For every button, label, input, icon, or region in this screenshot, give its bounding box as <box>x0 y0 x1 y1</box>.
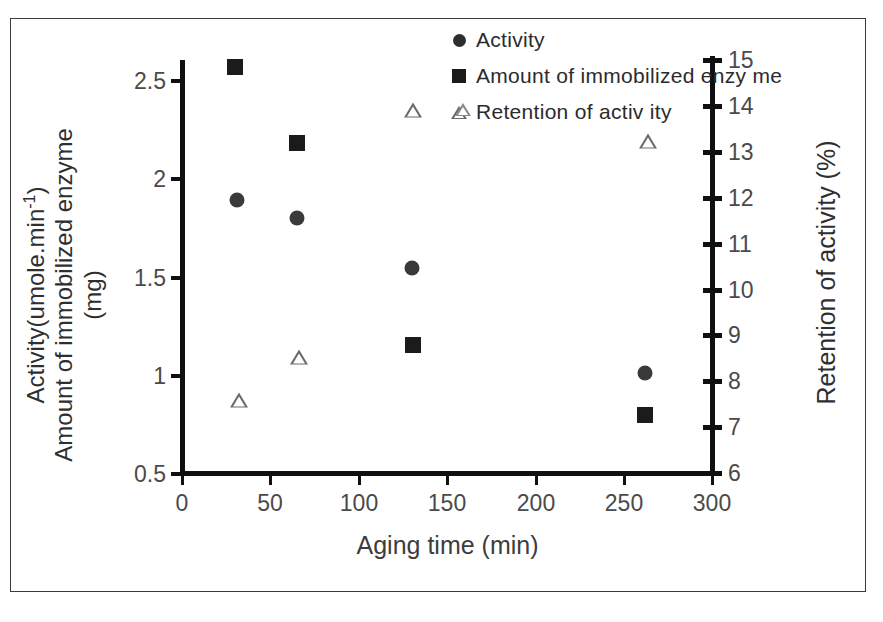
x-tick-label-50: 50 <box>257 492 283 515</box>
data-point-activity-30 <box>230 193 245 208</box>
y-left-title-text-a: Activity(umole.min <box>22 209 49 404</box>
y-axis-left-title: Activity(umole.min-1) Amount of immobili… <box>21 35 107 555</box>
y-left-tick-0.5 <box>171 472 182 476</box>
y-left-label-2.5: 2.5 <box>134 70 166 93</box>
data-point-activity-60 <box>290 211 305 226</box>
y-right-label-8: 8 <box>728 370 741 393</box>
y-right-label-13: 13 <box>728 141 754 164</box>
data-point-enzyme-30 <box>227 59 243 75</box>
x-tick-label-100: 100 <box>340 492 378 515</box>
x-tick-label-0: 0 <box>176 492 189 515</box>
legend-item-activity: Activity <box>448 22 782 58</box>
filled-circle-icon <box>448 34 470 47</box>
y-right-tick-7 <box>703 425 722 430</box>
y-right-tick-12 <box>703 196 722 201</box>
x-tick-200 <box>535 476 538 485</box>
y-left-tick-1.5 <box>171 276 182 280</box>
x-tick-50 <box>269 476 272 485</box>
x-tick-label-300: 300 <box>693 492 731 515</box>
y-right-label-12: 12 <box>728 187 754 210</box>
y-right-tick-8 <box>703 379 722 384</box>
data-point-enzyme-120 <box>405 337 421 353</box>
y-right-tick-13 <box>703 150 722 155</box>
y-right-label-9: 9 <box>728 324 741 347</box>
y-right-label-7: 7 <box>728 416 741 439</box>
x-tick-label-200: 200 <box>517 492 555 515</box>
y-axis-left-title-line1: Activity(umole.min-1) <box>21 35 50 555</box>
data-point-retention-30 <box>230 393 248 408</box>
y-left-tick-2.5 <box>171 79 182 83</box>
data-point-activity-240 <box>638 366 653 381</box>
y-axis-right-title: Retention of activity (%) <box>812 43 841 503</box>
data-point-enzyme-60 <box>289 135 305 151</box>
data-point-retention-120 <box>404 103 422 118</box>
data-point-activity-120 <box>405 261 420 276</box>
figure-container: 0 50 100 150 200 250 300 0.5 1 1.5 2 2.5… <box>0 0 883 622</box>
y-left-label-1: 1 <box>153 365 166 388</box>
y-right-tick-6 <box>703 471 722 476</box>
y-left-label-0.5: 0.5 <box>134 463 166 486</box>
y-left-title-text-b: ) <box>22 187 49 195</box>
y-left-label-2: 2 <box>153 168 166 191</box>
x-tick-250 <box>623 476 626 485</box>
x-tick-300 <box>711 476 714 485</box>
y-left-tick-2 <box>171 177 182 181</box>
y-axis-left-title-line2: Amount of immobilized enzyme <box>50 35 78 555</box>
legend-item-retention: Retention of activ ity <box>448 94 782 130</box>
data-point-retention-60 <box>290 350 308 365</box>
x-tick-label-250: 250 <box>605 492 643 515</box>
y-left-title-superscript: -1 <box>21 195 38 209</box>
y-right-tick-10 <box>703 288 722 293</box>
legend-label-activity: Activity <box>476 28 545 52</box>
y-right-tick-11 <box>703 242 722 247</box>
x-tick-0 <box>181 476 184 485</box>
y-right-label-11: 11 <box>728 233 752 256</box>
y-left-label-1.5: 1.5 <box>134 267 166 290</box>
data-point-retention-240 <box>639 134 657 149</box>
y-right-tick-9 <box>703 333 722 338</box>
y-right-label-10: 10 <box>728 279 754 302</box>
legend-label-retention: Retention of activ ity <box>476 100 672 124</box>
y-left-tick-1 <box>171 374 182 378</box>
x-tick-150 <box>446 476 449 485</box>
filled-square-icon <box>448 69 470 83</box>
legend-label-enzyme: Amount of immobilized enzy me <box>476 64 782 88</box>
x-tick-100 <box>358 476 361 485</box>
y-axis-left-title-line3: (mg) <box>79 35 107 555</box>
y-right-label-6: 6 <box>728 462 741 485</box>
data-point-enzyme-240 <box>637 407 653 423</box>
x-tick-label-150: 150 <box>428 492 466 515</box>
stray-open-triangle-icon <box>455 103 471 116</box>
x-axis-title: Aging time (min) <box>180 531 715 560</box>
y-axis-left-line <box>180 60 185 476</box>
legend-item-enzyme: Amount of immobilized enzy me <box>448 58 782 94</box>
legend: Activity Amount of immobilized enzy me R… <box>448 22 782 130</box>
scatter-plot: 0 50 100 150 200 250 300 0.5 1 1.5 2 2.5… <box>0 0 883 622</box>
